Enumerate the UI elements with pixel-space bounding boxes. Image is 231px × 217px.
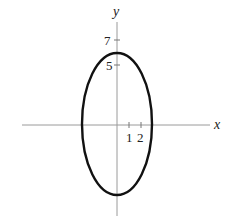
- tick-label-y-7: 7: [104, 33, 111, 48]
- x-axis-label: x: [213, 117, 221, 132]
- tick-label-y-5: 5: [106, 58, 113, 73]
- tick-label-x-2: 2: [137, 130, 144, 145]
- ellipse-plot: y x 7 5 1 2: [0, 0, 231, 217]
- tick-label-x-1: 1: [126, 130, 133, 145]
- y-axis-label: y: [111, 4, 120, 19]
